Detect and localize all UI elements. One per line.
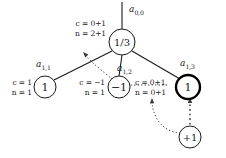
node-label-a13: a1,3 [180, 58, 195, 70]
backprop-leaf-curve [152, 103, 180, 133]
annotation-a12-c: c = −1 [71, 78, 105, 88]
annotation-a13-n: n = 0+1 [135, 88, 177, 98]
annotation-a13-c: c = 0+1 [135, 78, 177, 88]
annotation-a11: c = 1 n = 1 [2, 78, 32, 97]
annotation-a12-n: n = 1 [71, 88, 105, 98]
edge-root-to-a11 [54, 51, 112, 80]
node-label-a12-sub: 1,2 [122, 68, 131, 75]
annotation-a12: c = −1 n = 1 [71, 78, 105, 97]
node-label-a12: a1,2 [117, 63, 132, 75]
node-label-a00-sub: 0,0 [134, 9, 143, 16]
backprop-a12-to-root [86, 56, 112, 79]
annotation-a00-c: c = 0+1 [62, 19, 106, 29]
node-a11-value: 1 [42, 81, 49, 94]
node-label-a11-sub: 1,1 [41, 64, 50, 71]
node-a00-value: 1/3 [114, 37, 130, 48]
node-leaf-value: +1 [183, 132, 198, 143]
node-a12-value: −1 [111, 81, 127, 94]
annotation-a00-n: n = 2+1 [62, 29, 106, 39]
annotation-a11-n: n = 1 [2, 88, 32, 98]
annotation-a11-c: c = 1 [2, 78, 32, 88]
tree-diagram-canvas: 1/3 1 −1 1 +1 a0,0 a1,1 a1,2 a1,3 c = 0+… [0, 0, 226, 158]
backprop-arrowhead-a13-stats [150, 98, 154, 103]
node-a13-value: 1 [185, 81, 192, 94]
edge-root-to-a13 [132, 51, 180, 79]
annotation-a00: c = 0+1 n = 2+1 [62, 19, 106, 38]
node-label-a11: a1,1 [36, 59, 51, 71]
annotation-a13: c = 0+1 n = 0+1 [135, 78, 177, 97]
node-label-a13-sub: 1,3 [185, 63, 194, 70]
node-label-a00: a0,0 [129, 4, 144, 16]
backprop-arrowhead-root [83, 52, 88, 58]
tree-graph-svg: 1/3 1 −1 1 +1 [0, 0, 226, 158]
